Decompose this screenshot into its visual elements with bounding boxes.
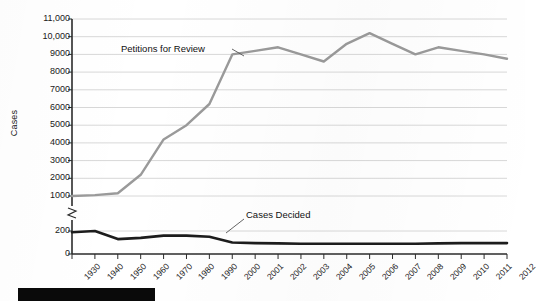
- x-tick-label: 1940: [105, 262, 124, 281]
- x-tick-label: 2000: [243, 262, 262, 281]
- x-tick-label: 2007: [403, 262, 422, 281]
- x-tick-label: 2008: [426, 262, 445, 281]
- x-tick-label: 2005: [357, 262, 376, 281]
- annotation-petitions-for-review: Petitions for Review: [121, 44, 205, 54]
- x-tick-label: 2009: [449, 262, 468, 281]
- x-tick-label: 2006: [380, 262, 399, 281]
- x-tick-label: 1960: [151, 262, 170, 281]
- x-tick-label: 1990: [220, 262, 239, 281]
- x-tick-label: 2011: [494, 262, 513, 281]
- x-tick-label: 2001: [266, 262, 285, 281]
- x-tick-label: 2012: [518, 262, 537, 281]
- x-tick-label: 1970: [174, 262, 193, 281]
- x-tick-label: 1930: [83, 262, 102, 281]
- x-tick-label: 2002: [289, 262, 308, 281]
- x-tick-label: 2004: [334, 262, 353, 281]
- x-tick-label: 1980: [197, 262, 216, 281]
- footer-black-bar: [18, 288, 155, 301]
- annotation-cases-decided: Cases Decided: [246, 210, 310, 220]
- x-tick-label: 2003: [311, 262, 330, 281]
- x-tick-label: 1950: [128, 262, 147, 281]
- x-tick-label: 2010: [472, 262, 491, 281]
